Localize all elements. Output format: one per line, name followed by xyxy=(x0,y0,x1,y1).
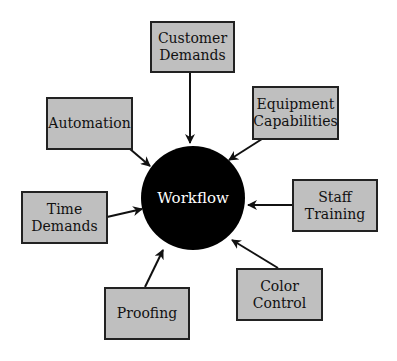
node-label: Time Demands xyxy=(23,201,106,235)
arrow-color-control xyxy=(232,240,278,268)
arrow-automation xyxy=(130,149,150,166)
node-label: Customer Demands xyxy=(152,30,233,64)
node-staff-training: Staff Training xyxy=(292,179,378,232)
node-time-demands: Time Demands xyxy=(21,191,108,244)
node-label: Staff Training xyxy=(294,189,376,223)
node-color-control: Color Control xyxy=(236,268,323,321)
arrow-time-demands xyxy=(107,209,142,217)
workflow-center-node: Workflow xyxy=(141,146,245,250)
node-customer-demands: Customer Demands xyxy=(150,21,235,73)
node-label: Color Control xyxy=(238,278,321,312)
node-label: Automation xyxy=(48,115,130,132)
center-label: Workflow xyxy=(157,189,229,207)
arrow-proofing xyxy=(145,250,163,287)
node-automation: Automation xyxy=(46,97,133,150)
workflow-diagram: Workflow Customer Demands Equipment Capa… xyxy=(0,0,397,361)
node-label: Proofing xyxy=(117,305,177,322)
node-equipment-capabilities: Equipment Capabilities xyxy=(252,86,339,140)
arrow-equipment-capabilities xyxy=(229,139,262,160)
node-proofing: Proofing xyxy=(104,287,190,340)
node-label: Equipment Capabilities xyxy=(253,96,337,130)
